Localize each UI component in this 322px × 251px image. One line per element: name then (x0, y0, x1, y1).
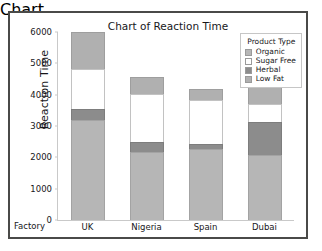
bar-segment[interactable] (71, 120, 105, 220)
legend-item-label: Low Fat (256, 75, 284, 83)
x-tick-label: Spain (176, 222, 236, 232)
x-axis-title: Factory (14, 221, 45, 231)
chart-title: Chart of Reaction Time (10, 20, 306, 32)
y-tick-label: 0 (47, 215, 52, 225)
bar-nigeria[interactable] (130, 77, 164, 220)
chart-canvas: Chart of Reaction Time Reaction Time Fac… (10, 13, 306, 237)
y-tick-label: 2000 (30, 152, 52, 162)
y-tick-label: 5000 (30, 58, 52, 68)
bar-segment[interactable] (189, 149, 223, 220)
legend-item[interactable]: Low Fat (245, 75, 296, 83)
y-tick-mark (55, 32, 58, 33)
y-tick-mark (55, 63, 58, 64)
bar-segment[interactable] (130, 142, 164, 152)
y-tick-mark (55, 126, 58, 127)
x-axis-line (57, 220, 294, 221)
bar-segment[interactable] (189, 100, 223, 143)
bar-segment[interactable] (248, 122, 282, 155)
bar-segment[interactable] (189, 89, 223, 100)
y-tick-label: 3000 (30, 121, 52, 131)
bar-dubai[interactable] (248, 80, 282, 220)
bar-uk[interactable] (71, 32, 105, 220)
legend-item[interactable]: Herbal (245, 66, 296, 74)
bar-segment[interactable] (130, 94, 164, 142)
x-tick-label: Dubai (235, 222, 295, 232)
bar-segment[interactable] (248, 104, 282, 122)
bar-segment[interactable] (130, 152, 164, 220)
y-tick-mark (55, 220, 58, 221)
y-tick-mark (55, 94, 58, 95)
legend-swatch-icon (245, 58, 252, 65)
x-tick-label: Nigeria (117, 222, 177, 232)
legend-title: Product Type (247, 37, 296, 46)
legend-item-label: Herbal (256, 66, 281, 74)
legend-entries: OrganicSugar FreeHerbalLow Fat (245, 48, 296, 83)
legend-swatch-icon (245, 67, 252, 74)
bar-segment[interactable] (130, 77, 164, 95)
bar-segment[interactable] (248, 155, 282, 220)
bar-segment[interactable] (71, 32, 105, 69)
y-tick-label: 1000 (30, 184, 52, 194)
x-tick-label: UK (58, 222, 118, 232)
legend-item[interactable]: Organic (245, 48, 296, 56)
legend: Product Type OrganicSugar FreeHerbalLow … (240, 33, 302, 88)
legend-swatch-icon (245, 49, 252, 56)
y-tick-label: 6000 (30, 27, 52, 37)
legend-item-label: Sugar Free (256, 57, 296, 65)
legend-swatch-icon (245, 76, 252, 83)
y-tick-mark (55, 188, 58, 189)
y-tick-label: 4000 (30, 90, 52, 100)
bar-segment[interactable] (71, 69, 105, 109)
legend-item[interactable]: Sugar Free (245, 57, 296, 65)
y-tick-mark (55, 157, 58, 158)
legend-item-label: Organic (256, 48, 285, 56)
bar-spain[interactable] (189, 89, 223, 220)
chart-frame: Chart of Reaction Time Reaction Time Fac… (8, 11, 308, 239)
bar-segment[interactable] (71, 109, 105, 120)
